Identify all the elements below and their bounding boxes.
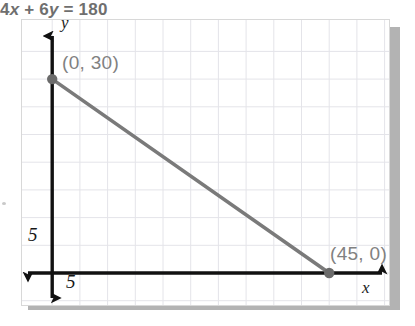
axis-label-y: y [61, 13, 69, 33]
point-label-x-intercept: (45, 0) [330, 243, 387, 265]
equation-coefficient-x: 4 [0, 0, 10, 19]
equation-variable-y: y [49, 0, 59, 19]
equation-line [52, 79, 329, 273]
point-marker-x-intercept [324, 268, 334, 278]
graph-figure: (0, 30) (45, 0) 4x + 6y = 180 y x 5 5 [0, 0, 415, 326]
equation-operator-plus: + 6 [19, 0, 49, 19]
equation-variable-x: x [10, 0, 20, 19]
x-axis-tick-label: 5 [66, 271, 76, 293]
y-axis-tick-label: 5 [28, 224, 38, 246]
axis-label-x: x [362, 278, 370, 298]
page-edge-artifact [2, 202, 6, 205]
point-label-y-intercept: (0, 30) [62, 52, 119, 74]
point-marker-y-intercept [47, 74, 57, 84]
